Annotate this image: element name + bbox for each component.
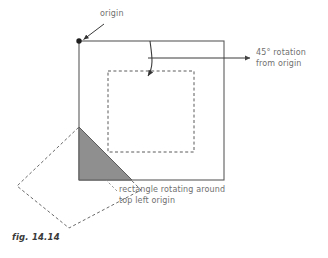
label-rotation-from-origin: 45° rotation from origin — [256, 48, 306, 69]
diagram-canvas — [0, 0, 328, 258]
filled-overlap-triangle — [79, 127, 132, 180]
figure-caption: fig. 14.14 — [12, 232, 60, 242]
origin-dot — [76, 38, 81, 43]
origin-pointer-arrow-icon — [84, 24, 105, 40]
label-origin: origin — [100, 9, 124, 20]
figure-container: origin 45° rotation from origin rectangl… — [0, 0, 328, 258]
label-rectangle-rotating: rectangle rotating around top left origi… — [119, 185, 225, 206]
leader-line-icon — [106, 180, 117, 191]
inner-dashed-square — [108, 71, 194, 152]
